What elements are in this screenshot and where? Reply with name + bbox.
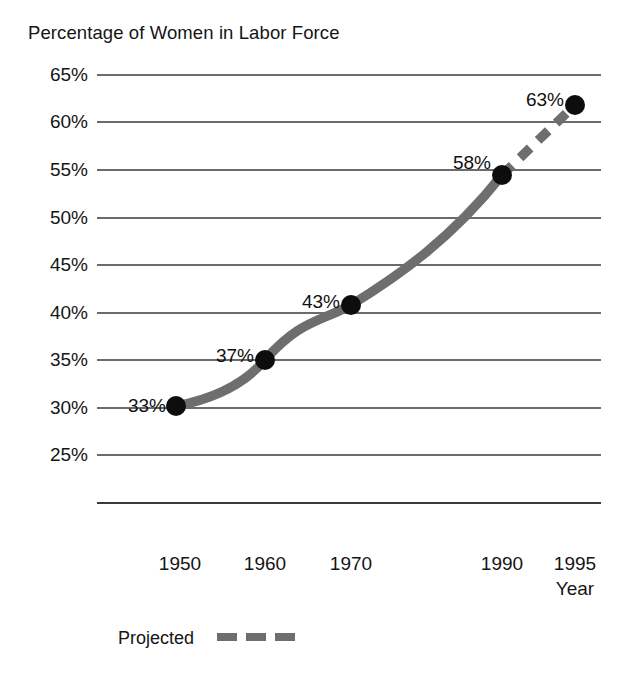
x-axis-title: Year <box>556 578 594 600</box>
series-line-projected <box>502 105 575 175</box>
data-label-1970: 43% <box>302 291 340 313</box>
data-label-1950: 33% <box>128 395 166 417</box>
data-point-1995 <box>565 95 585 115</box>
data-point-1970 <box>341 295 361 315</box>
data-point-1990 <box>492 165 512 185</box>
data-point-markers <box>166 95 585 416</box>
chart-figure: Percentage of Women in Labor Force 65% 6… <box>0 0 627 676</box>
legend-dash-2 <box>246 633 266 641</box>
data-label-1995: 63% <box>526 89 564 111</box>
legend-dash-3 <box>275 633 295 641</box>
data-label-1960: 37% <box>216 345 254 367</box>
gridlines <box>97 75 601 503</box>
x-tick-label-1950: 1950 <box>159 553 201 575</box>
x-tick-label-1995: 1995 <box>554 553 596 575</box>
x-tick-label-1960: 1960 <box>244 553 286 575</box>
legend-label-projected: Projected <box>118 628 194 649</box>
legend-dash-1 <box>217 633 237 641</box>
x-tick-label-1970: 1970 <box>330 553 372 575</box>
x-tick-label-1990: 1990 <box>481 553 523 575</box>
data-point-1960 <box>255 350 275 370</box>
data-label-1990: 58% <box>453 152 491 174</box>
data-point-1950 <box>166 396 186 416</box>
legend-dashes <box>217 633 295 641</box>
